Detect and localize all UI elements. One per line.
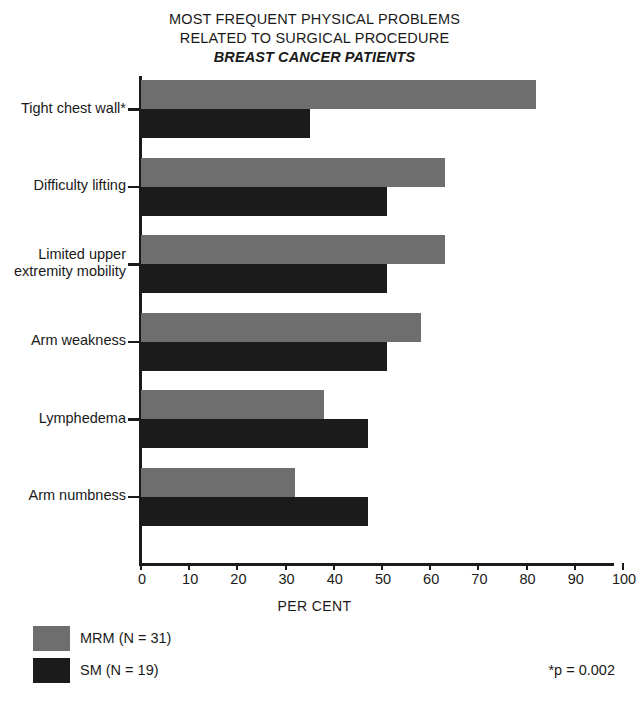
bar-sm-3	[141, 342, 387, 371]
legend-item-sm: SM (N = 19)	[33, 654, 171, 686]
y-tick-5	[128, 496, 140, 499]
bar-sm-2	[141, 264, 387, 293]
bar-mrm-2	[141, 235, 445, 264]
y-tick-1	[128, 186, 140, 189]
legend-label-mrm: MRM (N = 31)	[80, 630, 171, 646]
x-axis-line	[139, 563, 614, 566]
y-category-label-2: Limited upperextremity mobility	[14, 246, 126, 280]
y-tick-4	[128, 418, 140, 421]
x-tick-10	[188, 563, 190, 570]
bar-mrm-3	[141, 313, 421, 342]
x-tick-label-70: 70	[459, 571, 499, 587]
x-tick-label-60: 60	[411, 571, 451, 587]
category-label-line: Limited upper	[14, 246, 126, 263]
bar-mrm-0	[141, 80, 536, 109]
y-category-label-1: Difficulty lifting	[34, 177, 126, 194]
x-tick-label-90: 90	[556, 571, 596, 587]
y-category-label-4: Lymphedema	[39, 410, 126, 427]
bar-sm-0	[141, 109, 310, 138]
legend-label-sm: SM (N = 19)	[80, 662, 159, 678]
bar-mrm-5	[141, 468, 295, 497]
category-label-line: extremity mobility	[14, 263, 126, 280]
x-tick-label-20: 20	[218, 571, 258, 587]
bar-sm-1	[141, 187, 387, 216]
legend-item-mrm: MRM (N = 31)	[33, 622, 171, 654]
legend-swatch-mrm	[33, 626, 70, 651]
x-tick-label-10: 10	[170, 571, 210, 587]
category-label-line: Arm weakness	[31, 332, 126, 349]
y-category-label-0: Tight chest wall*	[21, 100, 126, 117]
bar-sm-4	[141, 419, 368, 448]
x-tick-label-0: 0	[122, 571, 162, 587]
legend-swatch-sm	[33, 658, 70, 683]
chart-legend: MRM (N = 31) SM (N = 19)	[33, 622, 171, 686]
x-tick-60	[429, 563, 431, 570]
x-tick-label-50: 50	[363, 571, 403, 587]
bar-sm-5	[141, 497, 368, 526]
x-tick-90	[574, 563, 576, 570]
y-tick-2	[128, 263, 140, 266]
p-value-footnote: *p = 0.002	[548, 662, 615, 678]
x-tick-50	[381, 563, 383, 570]
bar-mrm-1	[141, 158, 445, 187]
y-tick-0	[128, 108, 140, 111]
y-category-label-5: Arm numbness	[28, 487, 126, 504]
category-label-line: Lymphedema	[39, 410, 126, 427]
x-tick-label-80: 80	[508, 571, 548, 587]
x-tick-0	[140, 563, 142, 570]
x-tick-70	[477, 563, 479, 570]
x-tick-40	[333, 563, 335, 570]
x-tick-label-30: 30	[267, 571, 307, 587]
x-axis-title: PER CENT	[0, 598, 629, 614]
y-tick-3	[128, 341, 140, 344]
x-tick-label-100: 100	[604, 571, 641, 587]
category-label-line: Difficulty lifting	[34, 177, 126, 194]
x-tick-100	[622, 563, 624, 570]
x-tick-80	[526, 563, 528, 570]
x-tick-20	[236, 563, 238, 570]
x-tick-30	[285, 563, 287, 570]
category-label-line: Arm numbness	[28, 487, 126, 504]
category-label-line: Tight chest wall*	[21, 100, 126, 117]
x-tick-label-40: 40	[315, 571, 355, 587]
y-category-label-3: Arm weakness	[31, 332, 126, 349]
bar-mrm-4	[141, 390, 324, 419]
